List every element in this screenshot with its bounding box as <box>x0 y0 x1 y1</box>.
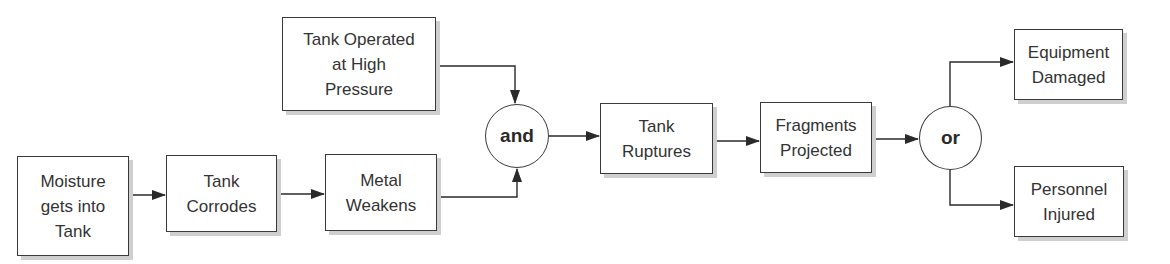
node-personnel: Personnel Injured <box>1014 166 1124 237</box>
node-fragments: Fragments Projected <box>760 102 872 173</box>
gate-label: and <box>500 125 534 147</box>
node-pressure: Tank Operated at High Pressure <box>282 17 436 111</box>
node-text: Moisture <box>40 169 105 194</box>
node-text: Ruptures <box>622 139 691 164</box>
node-text: Tank Operated <box>303 27 415 52</box>
edge-weakens-and <box>437 169 517 197</box>
node-text: Fragments <box>775 113 856 138</box>
and-gate: and <box>485 104 549 168</box>
node-text: Tank <box>187 169 257 194</box>
node-text: Injured <box>1031 202 1108 227</box>
edge-or-personnel <box>950 170 1013 205</box>
node-text: Equipment <box>1028 40 1109 65</box>
edge-or-equipment <box>950 62 1013 106</box>
edge-pressure-and <box>436 66 515 103</box>
node-text: Metal <box>346 168 417 193</box>
node-text: Projected <box>775 138 856 163</box>
node-equipment: Equipment Damaged <box>1014 29 1123 100</box>
node-text: at High <box>303 52 415 77</box>
node-ruptures: Tank Ruptures <box>600 103 713 174</box>
node-moisture: Moisture gets into Tank <box>17 156 129 256</box>
gate-label: or <box>941 127 960 149</box>
or-gate: or <box>919 106 982 170</box>
node-text: gets into <box>40 194 105 219</box>
node-text: Weakens <box>346 193 417 218</box>
node-text: Corrodes <box>187 194 257 219</box>
node-text: Pressure <box>303 77 415 102</box>
node-text: Tank <box>622 114 691 139</box>
node-text: Tank <box>40 219 105 244</box>
node-text: Personnel <box>1031 177 1108 202</box>
node-corrodes: Tank Corrodes <box>166 155 277 232</box>
node-weakens: Metal Weakens <box>325 154 437 231</box>
node-text: Damaged <box>1028 65 1109 90</box>
